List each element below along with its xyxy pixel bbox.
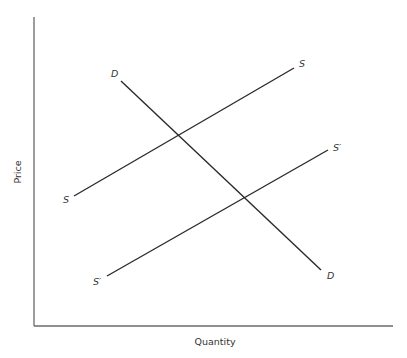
axes	[34, 17, 393, 326]
label-s-prime-bottom: S′	[93, 276, 102, 287]
supply-curve-s	[74, 68, 294, 196]
label-d-bottom: D	[327, 270, 334, 281]
y-axis-label: Price	[12, 160, 23, 183]
x-axis-label: Quantity	[194, 336, 235, 347]
label-s-prime-top: S′	[333, 142, 342, 153]
supply-curve-s-prime	[107, 150, 328, 276]
demand-curve-d	[121, 81, 321, 270]
supply-demand-diagram: D D S S S′ S′ Price Quantity	[0, 0, 407, 358]
curve-labels: D D S S S′ S′	[63, 58, 342, 287]
label-s-bottom: S	[63, 194, 69, 205]
curves	[74, 68, 328, 276]
label-s-top: S	[299, 58, 305, 69]
label-d-top: D	[111, 68, 118, 79]
